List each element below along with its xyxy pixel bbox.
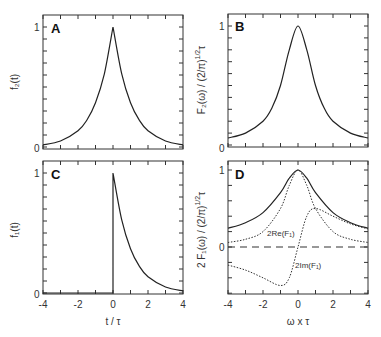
- panel-d-ytick-0: 0: [219, 242, 225, 253]
- panel-d-letter: D: [235, 167, 244, 182]
- panel-a-ytick-0: 0: [34, 143, 40, 154]
- panel-d-ylabel: 2 F₁(ω) / (2/π)1/2τ: [194, 192, 207, 268]
- panel-c-xtick-label: 2: [145, 299, 151, 310]
- figure: A 1 0 f₂(t) B 1 0 F₂(ω) / (2/π)1/2τ C 1 …: [0, 0, 381, 337]
- panel-c: C 1 0 f₁(t) -4 -2 0 2 4 t / τ: [9, 161, 186, 327]
- panel-c-letter: C: [51, 167, 61, 182]
- panel-a-ylabel: f₂(t): [9, 74, 20, 90]
- panel-d-curve-imag: [228, 209, 368, 286]
- panel-b-curve-F2: [228, 26, 368, 138]
- panel-d-ticks: [228, 161, 368, 294]
- panel-a: A 1 0 f₂(t): [9, 15, 183, 154]
- panel-c-curve-f1: [43, 173, 183, 293]
- panel-c-xlabel: t / τ: [105, 316, 120, 327]
- panel-b-ytick-0: 0: [219, 143, 225, 154]
- panel-d-im-label: 2Im(F₁): [295, 261, 322, 270]
- panel-d-xtick-label: -4: [224, 299, 233, 310]
- panel-d-re-label: 2Re(F₁): [267, 229, 295, 238]
- panel-b-ylabel: F₂(ω) / (2/π)1/2τ: [194, 46, 207, 114]
- panel-a-curve-f2: [43, 27, 183, 145]
- panel-c-ytick-1: 1: [34, 168, 40, 179]
- panel-a-letter: A: [51, 21, 61, 36]
- panel-d-frame: [228, 161, 368, 294]
- panel-c-xticklabels: -4 -2 0 2 4: [39, 299, 187, 310]
- panel-b: B 1 0 F₂(ω) / (2/π)1/2τ: [194, 14, 368, 154]
- panel-a-frame: [43, 15, 183, 149]
- panel-b-ytick-1: 1: [219, 21, 225, 32]
- panel-d-xtick-label: 2: [330, 299, 336, 310]
- panel-b-frame: [228, 14, 368, 147]
- panel-b-ticks: [228, 14, 368, 147]
- panel-d-xtick-label: 4: [365, 299, 371, 310]
- panel-c-xtick-label: 4: [180, 299, 186, 310]
- panel-c-xtick-label: -2: [74, 299, 83, 310]
- panel-d-curve-real: [228, 170, 368, 243]
- panel-d-curve-magnitude: [228, 170, 368, 228]
- panel-a-ytick-1: 1: [34, 22, 40, 33]
- panel-d: D 2Re(F₁) 2Im(F₁) 1 0 2 F₁(ω) / (2/π)1/2…: [194, 161, 371, 327]
- panel-d-xticklabels: -4 -2 0 2 4: [224, 299, 372, 310]
- panel-a-ticks: [43, 15, 183, 149]
- panel-d-xtick-label: 0: [295, 299, 301, 310]
- panel-c-xtick-label: -4: [39, 299, 48, 310]
- panel-d-xlabel: ω x τ: [287, 316, 309, 327]
- panel-d-ytick-1: 1: [219, 165, 225, 176]
- panel-d-xtick-label: -2: [259, 299, 268, 310]
- panel-b-letter: B: [235, 19, 244, 34]
- panel-c-xtick-label: 0: [110, 299, 116, 310]
- panel-c-ylabel: f₁(t): [9, 222, 20, 238]
